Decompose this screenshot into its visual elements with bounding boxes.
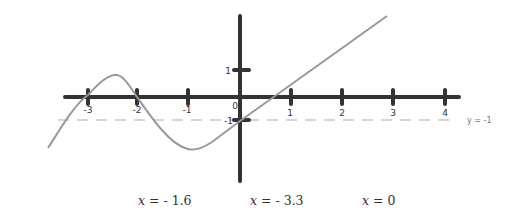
x-tick-label: 1 xyxy=(287,108,293,118)
answer-2: x = - 3.3 xyxy=(250,193,304,208)
answers-row: x = - 1.6 x = - 3.3 x = 0 xyxy=(0,193,514,213)
answer-variable: x xyxy=(250,193,257,208)
y-tick-label: 1 xyxy=(225,66,231,76)
answer-3: x = 0 xyxy=(362,193,395,208)
function-curve xyxy=(48,16,387,150)
y-tick-label: -1 xyxy=(224,116,233,126)
origin-label: 0 xyxy=(232,101,238,111)
answer-1: x = - 1.6 xyxy=(138,193,192,208)
asymptote-label: y = -1 xyxy=(467,116,492,125)
x-tick-label: 4 xyxy=(442,108,448,118)
answer-variable: x xyxy=(362,193,369,208)
x-tick-label: 2 xyxy=(339,108,345,118)
answer-value: = 0 xyxy=(369,193,395,208)
x-tick-label: -3 xyxy=(84,105,93,115)
x-tick-label: -2 xyxy=(133,105,142,115)
x-tick-label: 3 xyxy=(390,108,396,118)
answer-value: = - 1.6 xyxy=(145,193,192,208)
function-graph: -3 -2 -1 1 2 3 4 1 -1 0 y = -1 xyxy=(0,0,514,217)
answer-variable: x xyxy=(138,193,145,208)
x-tick-label: -1 xyxy=(183,105,192,115)
answer-value: = - 3.3 xyxy=(257,193,304,208)
